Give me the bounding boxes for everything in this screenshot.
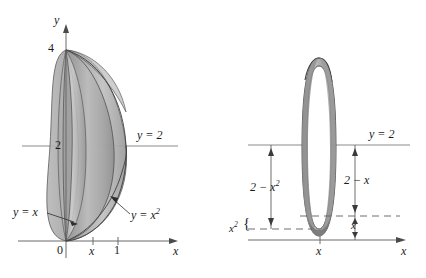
right-outer-radius-exponent: 2	[275, 179, 279, 188]
left-x-tick-x: x	[89, 245, 94, 257]
right-line-y-equals-2-label: y = 2	[369, 128, 394, 140]
left-y-tick-4: 4	[48, 42, 54, 54]
left-origin-label: 0	[57, 244, 63, 256]
figure-canvas: y 4 2 0 x 1 x y = 2 y = x y = x2 y = 2 2…	[0, 0, 426, 278]
figure-vector-layer	[0, 0, 426, 278]
right-height-x-squared-exponent: 2	[234, 220, 238, 229]
left-curve-label-base: y = x	[131, 208, 156, 222]
right-height-x-squared-label: x2	[229, 221, 238, 234]
right-x-axis-label: x	[401, 245, 406, 257]
left-line-y-equals-2-label: y = 2	[137, 129, 162, 141]
right-brace-glyph: {	[243, 216, 250, 231]
left-curve-y-equals-x-squared-label: y = x2	[131, 208, 160, 221]
left-x-axis-label: x	[173, 245, 178, 257]
left-curve-label-exponent: 2	[156, 207, 160, 216]
right-inner-radius-label: 2 − x	[344, 174, 369, 186]
left-curve-y-equals-x-label: y = x	[13, 206, 38, 218]
right-outer-radius-base: 2 − x	[250, 180, 275, 194]
left-y-tick-2: 2	[55, 139, 61, 151]
right-outer-radius-label: 2 − x2	[250, 180, 280, 193]
right-height-x-label: x	[351, 220, 356, 231]
right-x-tick-x: x	[316, 245, 321, 257]
left-x-tick-1: 1	[114, 244, 120, 256]
washer-ring	[302, 58, 336, 236]
left-y-axis-label: y	[54, 14, 59, 26]
